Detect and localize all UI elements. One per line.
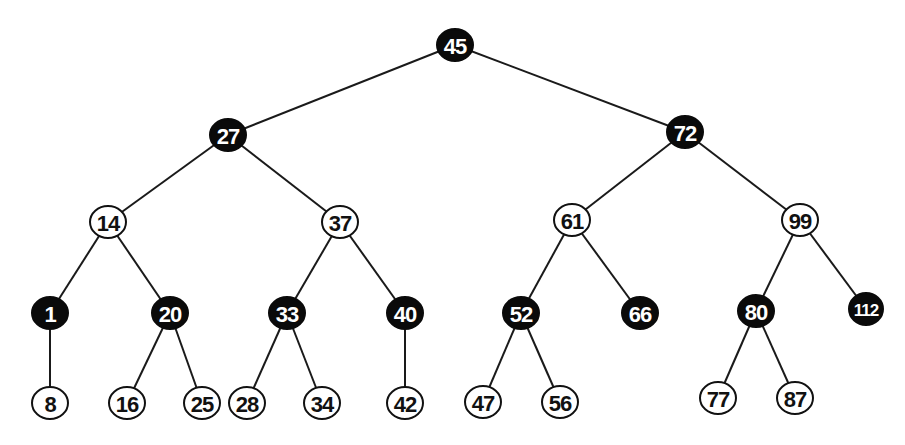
tree-edge-27-37 <box>228 135 340 222</box>
tree-edge-45-72 <box>455 45 685 132</box>
tree-node-42: 42 <box>387 387 423 419</box>
tree-edge-27-14 <box>108 135 228 222</box>
node-label: 87 <box>784 387 807 412</box>
node-label: 28 <box>236 392 259 417</box>
tree-node-66: 66 <box>622 297 658 329</box>
tree-node-8: 8 <box>32 387 68 419</box>
tree-edge-72-61 <box>572 132 685 220</box>
tree-node-37: 37 <box>322 206 358 238</box>
node-label: 112 <box>854 301 879 320</box>
node-label: 34 <box>311 392 335 417</box>
node-label: 52 <box>510 302 533 327</box>
tree-node-20: 20 <box>152 297 188 329</box>
tree-edge-72-99 <box>685 132 800 220</box>
tree-node-16: 16 <box>109 387 145 419</box>
tree-node-52: 52 <box>503 297 539 329</box>
node-label: 99 <box>789 209 812 234</box>
node-label: 61 <box>561 209 584 234</box>
node-label: 8 <box>44 392 56 417</box>
tree-node-34: 34 <box>304 387 340 419</box>
tree-node-1: 1 <box>32 297 68 329</box>
tree-node-72: 72 <box>667 116 703 148</box>
tree-node-61: 61 <box>554 204 590 236</box>
tree-node-14: 14 <box>90 206 126 238</box>
node-label: 45 <box>444 34 467 59</box>
node-label: 47 <box>472 391 495 416</box>
tree-edge-45-27 <box>228 45 455 135</box>
tree-node-25: 25 <box>184 387 220 419</box>
node-label: 40 <box>394 302 417 327</box>
node-label: 33 <box>276 302 299 327</box>
tree-node-56: 56 <box>542 386 578 418</box>
tree-node-33: 33 <box>269 297 305 329</box>
tree-node-27: 27 <box>210 119 246 151</box>
node-label: 27 <box>217 124 240 149</box>
tree-edges <box>50 45 866 403</box>
node-label: 37 <box>329 211 352 236</box>
tree-node-40: 40 <box>387 297 423 329</box>
red-black-tree-diagram: 4527721437619912033405266801128162528344… <box>0 0 905 445</box>
node-label: 14 <box>97 211 121 236</box>
tree-nodes: 4527721437619912033405266801128162528344… <box>32 29 883 419</box>
tree-node-47: 47 <box>465 386 501 418</box>
node-label: 20 <box>159 302 182 327</box>
tree-node-99: 99 <box>782 204 818 236</box>
node-label: 25 <box>191 392 214 417</box>
node-label: 1 <box>44 302 56 327</box>
node-label: 56 <box>549 391 572 416</box>
tree-node-87: 87 <box>777 382 813 414</box>
tree-node-45: 45 <box>437 29 473 61</box>
tree-node-112: 112 <box>849 293 883 325</box>
tree-node-80: 80 <box>738 295 774 327</box>
node-label: 42 <box>394 392 417 417</box>
node-label: 66 <box>629 302 652 327</box>
node-label: 80 <box>745 300 768 325</box>
node-label: 72 <box>674 121 697 146</box>
tree-node-28: 28 <box>229 387 265 419</box>
node-label: 16 <box>116 392 139 417</box>
tree-node-77: 77 <box>700 382 736 414</box>
node-label: 77 <box>707 387 730 412</box>
